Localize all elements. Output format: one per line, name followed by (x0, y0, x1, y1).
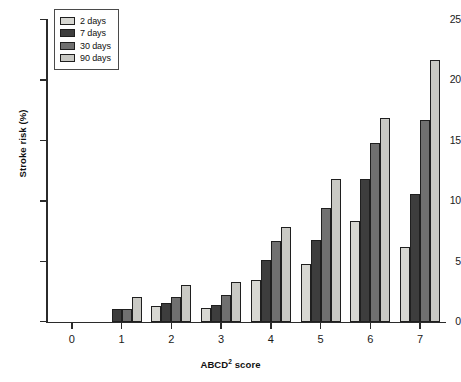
bar (331, 179, 341, 322)
legend-item[interactable]: 30 days (60, 40, 111, 52)
y-axis-tick (40, 200, 46, 201)
bar (430, 60, 440, 322)
legend-item-label: 7 days (80, 28, 106, 38)
y-axis-tick (40, 321, 46, 322)
y-axis-title: Stroke risk (%) (17, 74, 28, 214)
bar (350, 221, 360, 322)
bar (181, 285, 191, 322)
x-axis-tick (270, 323, 271, 329)
x-axis-tick (320, 323, 321, 329)
x-axis-title-base: ABCD (200, 359, 228, 370)
bar (161, 303, 171, 322)
bar (221, 295, 231, 322)
x-axis-tick (171, 323, 172, 329)
x-axis-title-tail: score (232, 359, 261, 370)
x-axis-tick (121, 323, 122, 329)
legend-item-label: 2 days (80, 16, 106, 26)
bar (301, 264, 311, 322)
x-axis-tick-label: 5 (306, 333, 336, 345)
bar (231, 282, 241, 322)
bar (132, 297, 142, 322)
bar (112, 309, 122, 322)
y-axis-tick (40, 79, 46, 80)
bar (311, 240, 321, 322)
x-axis-tick-label: 1 (107, 333, 137, 345)
x-axis-tick (220, 323, 221, 329)
legend-swatch-icon (60, 42, 75, 50)
chart-figure: 0510152025 01234567 Stroke risk (%) ABCD… (0, 0, 461, 382)
legend-item[interactable]: 7 days (60, 27, 111, 39)
x-axis-tick-label: 6 (355, 333, 385, 345)
bar (201, 308, 211, 322)
x-axis-tick-label: 2 (156, 333, 186, 345)
x-axis-title: ABCD2 score (0, 358, 461, 370)
x-axis-tick-label: 4 (256, 333, 286, 345)
bar (360, 179, 370, 322)
bar (281, 227, 291, 322)
legend-item[interactable]: 90 days (60, 52, 111, 64)
y-axis-tick (40, 261, 46, 262)
legend-swatch-icon (60, 54, 75, 62)
bar (261, 260, 271, 322)
x-axis-tick (71, 323, 72, 329)
bar (251, 280, 261, 322)
x-axis-tick-label: 7 (405, 333, 435, 345)
bar (370, 143, 380, 322)
y-axis-tick (40, 140, 46, 141)
chart-legend: 2 days7 days30 days90 days (54, 9, 119, 70)
bar (151, 306, 161, 322)
bar (271, 241, 281, 322)
x-axis-tick-label: 0 (57, 333, 87, 345)
bar (321, 208, 331, 322)
bar (410, 194, 420, 322)
legend-item[interactable]: 2 days (60, 15, 111, 27)
bar (122, 309, 132, 322)
bar (400, 247, 410, 322)
bar (380, 118, 390, 322)
legend-swatch-icon (60, 29, 75, 37)
bar (420, 120, 430, 322)
legend-item-label: 90 days (80, 53, 111, 63)
bar (171, 297, 181, 322)
legend-swatch-icon (60, 17, 75, 25)
x-axis-tick (419, 323, 420, 329)
y-axis-tick (40, 19, 46, 20)
x-axis-tick (370, 323, 371, 329)
bar (211, 305, 221, 322)
legend-item-label: 30 days (80, 41, 111, 51)
x-axis-tick-label: 3 (206, 333, 236, 345)
